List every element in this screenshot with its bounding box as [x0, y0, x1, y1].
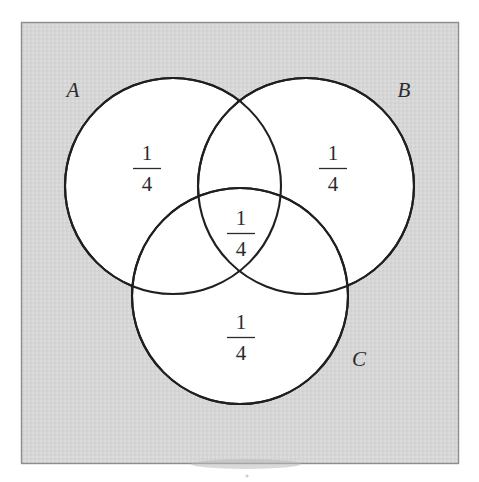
fraction-numerator: 1 [236, 206, 247, 230]
set-label-a: A [65, 78, 80, 102]
fraction-denominator: 4 [328, 172, 339, 196]
fraction-numerator: 1 [236, 310, 247, 334]
fraction-numerator: 1 [328, 141, 339, 165]
set-label-c: C [352, 347, 367, 371]
fraction-denominator: 4 [236, 237, 247, 261]
venn-diagram-figure: A B C 1 4 1 4 1 4 1 4 [0, 0, 479, 482]
set-label-b: B [398, 78, 411, 102]
scan-dot-artifact [245, 474, 248, 477]
venn-diagram-canvas: A B C 1 4 1 4 1 4 1 4 [0, 0, 479, 482]
fraction-denominator: 4 [236, 341, 247, 365]
fraction-numerator: 1 [142, 141, 153, 165]
scan-smudge-artifact [191, 459, 301, 469]
fraction-denominator: 4 [142, 172, 153, 196]
